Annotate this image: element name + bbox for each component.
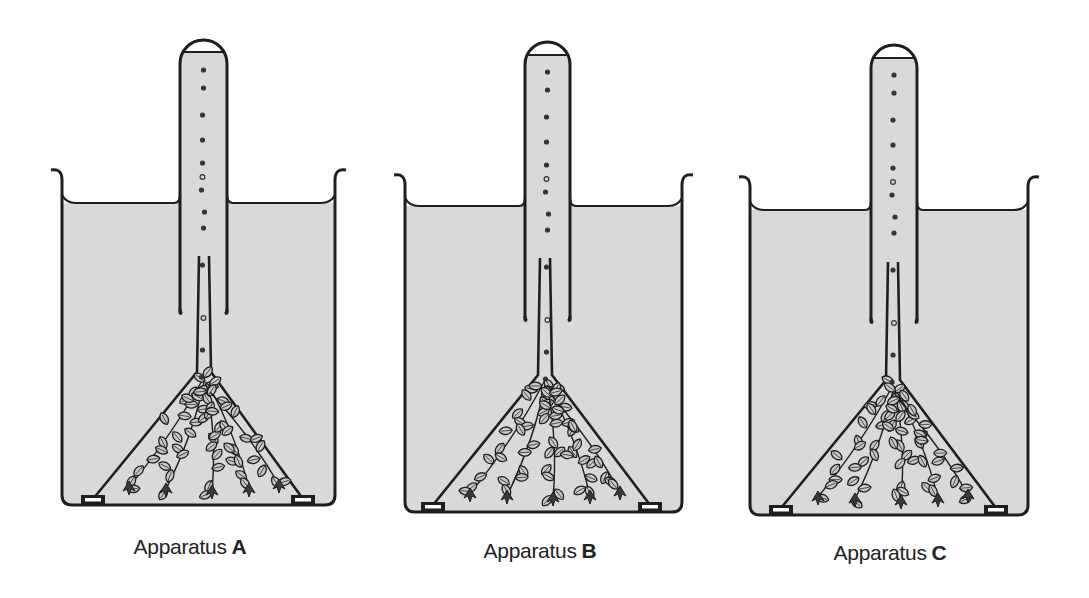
gas-bubble xyxy=(892,321,897,326)
caption-letter: B xyxy=(582,539,597,562)
gas-bubble xyxy=(201,161,205,165)
gas-bubble xyxy=(546,70,550,74)
water-surface xyxy=(750,202,871,210)
gas-bubble xyxy=(891,180,896,185)
gas-bubble xyxy=(546,88,550,92)
gas-bubble xyxy=(891,143,895,147)
gas-bubble xyxy=(201,113,205,117)
gas-bubble xyxy=(545,115,549,119)
apparatus-c xyxy=(739,45,1039,515)
gas-bubble xyxy=(202,68,206,72)
gas-bubble xyxy=(201,263,205,267)
gas-bubble xyxy=(547,212,551,216)
gas-bubble xyxy=(545,265,549,269)
gas-bubble xyxy=(545,163,549,167)
gas-bubble xyxy=(891,118,895,122)
water-surface xyxy=(227,195,335,203)
gas-bubble xyxy=(546,228,550,232)
caption-apparatus-b: ApparatusB xyxy=(484,539,597,563)
caption-apparatus-a: ApparatusA xyxy=(134,535,247,559)
apparatus-b xyxy=(394,42,693,512)
gas-bubble xyxy=(890,193,894,197)
water-surface xyxy=(405,198,525,206)
gas-bubble xyxy=(892,91,896,95)
gas-bubble xyxy=(893,215,897,219)
gas-bubble xyxy=(544,177,549,182)
gas-bubble xyxy=(890,380,894,384)
gas-bubble xyxy=(544,190,548,194)
gas-bubble xyxy=(201,348,205,352)
gas-bubble xyxy=(200,375,204,379)
apparatus-a xyxy=(51,40,346,505)
gas-bubble xyxy=(202,226,206,230)
gas-bubble xyxy=(891,353,895,357)
caption-prefix: Apparatus xyxy=(834,541,927,564)
gas-bubble xyxy=(545,350,549,354)
gas-bubble xyxy=(201,316,206,321)
gas-bubble xyxy=(200,188,204,192)
caption-letter: C xyxy=(932,541,947,564)
gas-bubble xyxy=(544,377,548,381)
caption-prefix: Apparatus xyxy=(134,535,227,558)
caption-letter: A xyxy=(232,535,247,558)
gas-bubble xyxy=(891,166,895,170)
caption-prefix: Apparatus xyxy=(484,539,577,562)
gas-bubble xyxy=(201,138,205,142)
caption-apparatus-c: ApparatusC xyxy=(834,541,947,565)
gas-bubble xyxy=(202,86,206,90)
gas-bubble xyxy=(891,268,895,272)
gas-bubble xyxy=(545,140,549,144)
water-surface xyxy=(570,198,682,206)
gas-bubble xyxy=(892,231,896,235)
gas-bubble xyxy=(892,73,896,77)
water-surface xyxy=(62,195,180,203)
gas-bubble xyxy=(545,318,550,323)
gas-bubble xyxy=(200,175,205,180)
apparatus-figure xyxy=(0,0,1089,598)
gas-bubble xyxy=(203,210,207,214)
water-surface xyxy=(917,202,1028,210)
